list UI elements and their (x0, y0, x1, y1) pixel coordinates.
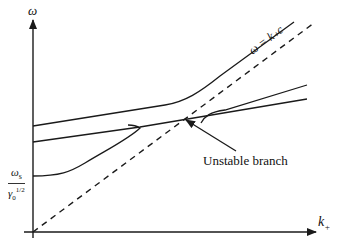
omega-sub: s (19, 172, 22, 181)
x-axis-label-sub: + (324, 222, 330, 232)
unstable-branch-arrow (186, 120, 236, 151)
x-axis-label: k+ (318, 214, 330, 232)
dispersion-diagram (0, 0, 338, 238)
gamma-sub: 0 (12, 194, 16, 202)
unstable-branch-annotation: Unstable branch (203, 153, 288, 169)
right-split-branch (201, 85, 307, 123)
y-intercept-numerator: ωs (8, 166, 25, 184)
light-line-asymptote (33, 23, 314, 232)
y-intercept-denominator: γ01/2 (8, 184, 25, 204)
y-axis-label: ω (28, 3, 37, 19)
gamma-sup: 1/2 (16, 186, 25, 194)
y-intercept-label: ωs γ01/2 (8, 166, 25, 204)
lower-branch-curve (33, 125, 140, 176)
middle-branch-line (33, 99, 307, 142)
omega-symbol: ω (11, 166, 19, 178)
